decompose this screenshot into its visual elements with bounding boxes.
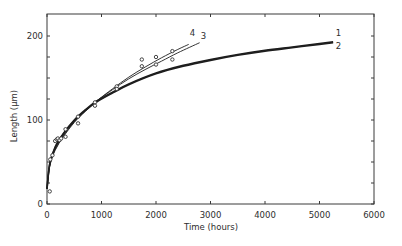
data-point [140,58,143,61]
x-tick-label: 6000 [363,210,385,220]
y-axis-title: Length (µm) [9,90,19,142]
curve-2 [47,43,333,189]
y-tick-label: 200 [27,31,43,41]
data-point [49,158,52,161]
data-point [115,87,118,90]
chart: 01000200030004000500060000100200 1234 Ti… [0,0,402,246]
data-point [76,115,79,118]
data-point [64,135,67,138]
data-point [171,49,174,52]
data-point [59,137,62,140]
axes: 01000200030004000500060000100200 [27,14,385,220]
y-tick-label: 0 [38,199,43,209]
data-points [48,49,174,193]
x-tick-label: 4000 [254,210,276,220]
data-point [93,104,96,107]
x-axis-title: Time (hours) [183,222,238,232]
data-point [140,65,143,68]
y-tick-label: 100 [27,115,43,125]
data-point [171,58,174,61]
curve-label-3: 3 [201,31,206,41]
data-point [76,122,79,125]
x-tick-label: 1000 [91,210,113,220]
curve-label-1: 1 [336,28,341,38]
curve-labels: 1234 [190,28,341,51]
x-tick-label: 2000 [145,210,167,220]
data-point [154,55,157,58]
data-point [48,190,51,193]
data-point [51,154,54,157]
data-point [93,101,96,104]
data-point [154,63,157,66]
x-tick-label: 3000 [200,210,222,220]
x-tick-label: 5000 [309,210,331,220]
curve-label-4: 4 [190,28,195,38]
curves [47,42,333,189]
x-tick-label: 0 [44,210,49,220]
curve-4 [47,44,189,188]
curve-3 [47,43,200,189]
data-point [64,128,67,131]
curve-label-2: 2 [336,41,341,51]
